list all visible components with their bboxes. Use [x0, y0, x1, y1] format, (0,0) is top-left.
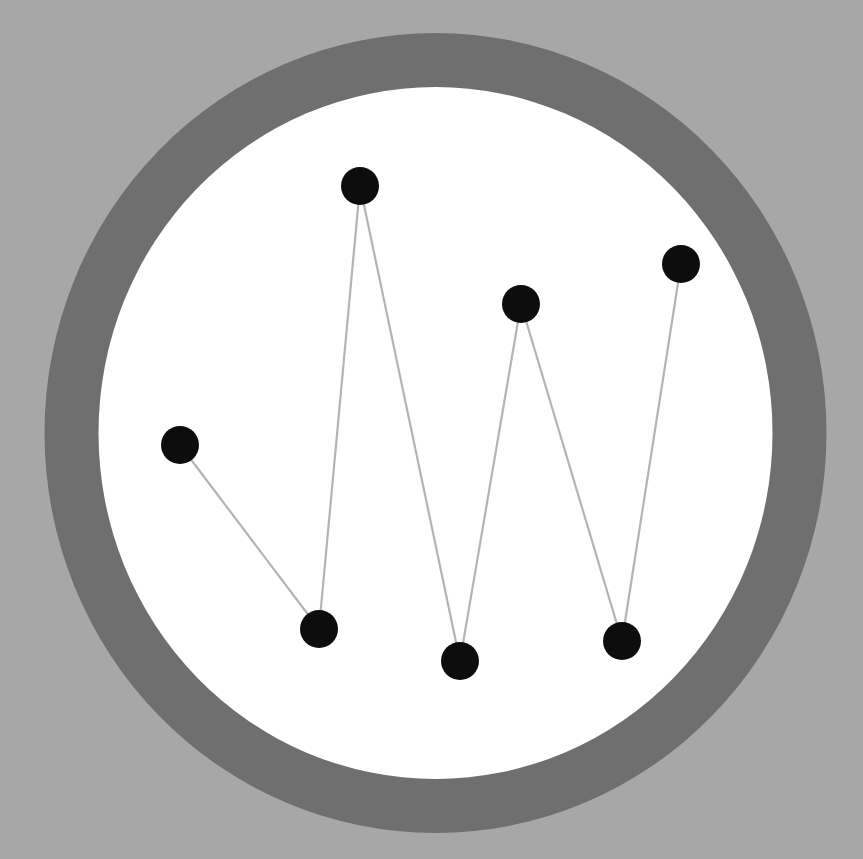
zigzag-diagram — [0, 0, 863, 859]
node-n6 — [603, 622, 641, 660]
node-n7 — [662, 245, 700, 283]
node-n4 — [441, 642, 479, 680]
node-n3 — [341, 167, 379, 205]
node-n2 — [300, 610, 338, 648]
inner-disc — [99, 87, 773, 779]
node-n5 — [502, 285, 540, 323]
node-n1 — [161, 426, 199, 464]
